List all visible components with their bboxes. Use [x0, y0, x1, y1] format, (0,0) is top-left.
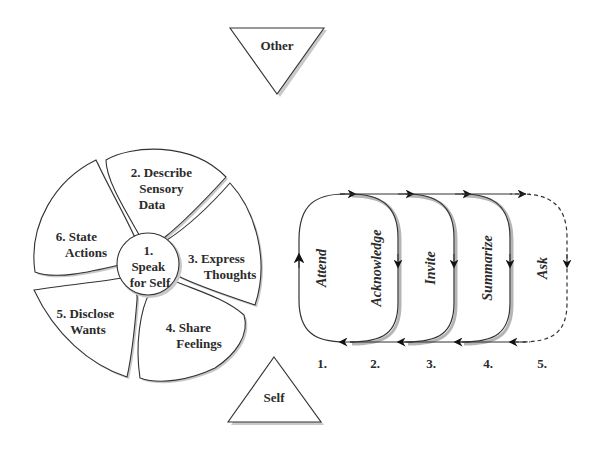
self-triangle: Self [228, 357, 324, 425]
self-label: Self [264, 390, 286, 405]
step-number-1: 1. [317, 356, 327, 371]
step-number-4: 4. [483, 356, 493, 371]
step-label-ask: Ask [535, 257, 550, 280]
speak-for-self-wheel: 2. Describe Sensory Data 3. Express Thou… [34, 149, 263, 383]
petal-disclose-wants: 5. Disclose Wants [34, 278, 139, 379]
other-label: Other [260, 38, 293, 53]
step-label-attend: Attend [314, 248, 329, 288]
step-label-acknowledge: Acknowledge [369, 230, 384, 308]
step-number-2: 2. [370, 356, 380, 371]
step-number-5: 5. [537, 356, 547, 371]
step-label-invite: Invite [423, 251, 438, 285]
other-triangle: Other [230, 28, 327, 97]
step-number-3: 3. [426, 356, 436, 371]
communication-loops: Attend Acknowledge Invite Summarize Ask … [299, 194, 567, 371]
diagram-canvas: Other Self 2. Describe Sensory Data 3. E… [0, 0, 605, 449]
step-label-summarize: Summarize [480, 235, 495, 300]
